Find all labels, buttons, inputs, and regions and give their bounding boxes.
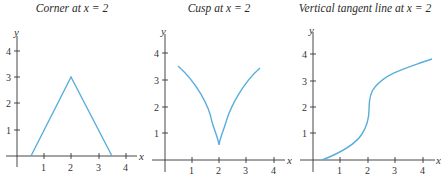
chart-3-xtick-4: 4: [420, 165, 425, 176]
chart-1-xtick-3: 3: [96, 162, 101, 173]
chart-3-xtick-2: 2: [365, 165, 370, 176]
chart-2-ytick-2: 2: [154, 102, 159, 113]
chart-3-xtick-3: 3: [392, 165, 397, 176]
chart-2-xtick-4: 4: [271, 165, 276, 176]
chart-1-curve: [31, 77, 112, 156]
chart-1-xtick-1: 1: [41, 162, 46, 173]
chart-1-ytick-3: 3: [6, 72, 11, 83]
chart-2-xtick-1: 1: [189, 165, 194, 176]
chart-2-x-label: x: [286, 154, 292, 166]
chart-3-ytick-3: 3: [302, 76, 307, 87]
chart-2-xtick-3: 3: [243, 165, 248, 176]
chart-3-y-label: y: [308, 24, 314, 36]
chart-3-vertical-tangent: 1 2 3 4 1 2 3 4 x y: [300, 24, 441, 176]
chart-2-cusp: 1 2 3 4 1 2 3 4 x y: [152, 25, 292, 176]
chart-1-ytick-4: 4: [6, 46, 11, 57]
chart-3-x-label: x: [435, 154, 441, 166]
chart-1-x-label: x: [138, 150, 144, 162]
chart-1-ytick-1: 1: [6, 125, 11, 136]
charts-canvas: 1 2 3 4 1 2 3 4 x y 1 2 3 4 1 2 3 4 x y: [0, 0, 441, 179]
chart-3-curve: [322, 59, 432, 160]
chart-2-ytick-1: 1: [154, 128, 159, 139]
chart-1-xtick-4: 4: [123, 162, 128, 173]
chart-2-ytick-4: 4: [154, 48, 159, 59]
chart-3-ytick-1: 1: [302, 128, 307, 139]
chart-1-ytick-2: 2: [6, 98, 11, 109]
chart-1-xtick-2: 2: [68, 162, 73, 173]
chart-2-ytick-3: 3: [154, 75, 159, 86]
chart-1-corner: 1 2 3 4 1 2 3 4 x y: [6, 26, 144, 173]
chart-3-ytick-4: 4: [302, 49, 307, 60]
chart-2-curve: [178, 66, 260, 145]
chart-3-xtick-1: 1: [337, 165, 342, 176]
chart-1-y-label: y: [13, 26, 19, 38]
chart-2-xtick-2: 2: [216, 165, 221, 176]
chart-2-y-label: y: [160, 25, 166, 37]
chart-3-ytick-2: 2: [302, 102, 307, 113]
